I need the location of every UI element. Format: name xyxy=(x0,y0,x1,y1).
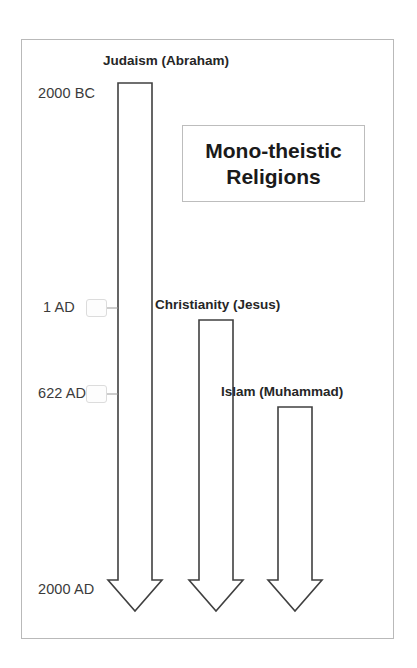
timeline-label-christianity: Christianity (Jesus) xyxy=(155,297,280,312)
date-label-1ad: 1 AD xyxy=(43,299,75,315)
date-label-622ad: 622 AD xyxy=(38,385,86,401)
timeline-label-islam: Islam (Muhammad) xyxy=(221,384,343,399)
diagram-canvas: 2000 BC 1 AD 622 AD 2000 AD Judaism (Abr… xyxy=(0,0,417,668)
title-card-line-2: Religions xyxy=(226,164,321,190)
timeline-label-judaism: Judaism (Abraham) xyxy=(103,53,229,68)
title-card: Mono-theistic Religions xyxy=(182,125,365,202)
title-card-line-1: Mono-theistic xyxy=(205,138,342,164)
callout-stub-622ad xyxy=(86,385,107,403)
date-label-2000bc: 2000 BC xyxy=(38,85,95,101)
callout-stub-1ad xyxy=(86,299,107,317)
date-label-2000ad: 2000 AD xyxy=(38,581,94,597)
